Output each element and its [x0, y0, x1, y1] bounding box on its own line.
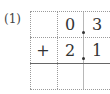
- grid-border-bottom: [30, 89, 110, 90]
- addition-grid: 0 3 + 2 1: [30, 11, 110, 89]
- digit-cell: 3: [84, 11, 110, 37]
- answer-digit-cell[interactable]: [84, 63, 110, 89]
- operator-cell: [30, 11, 56, 37]
- decimal-point: [82, 31, 85, 34]
- answer-operator-cell[interactable]: [30, 63, 56, 89]
- digit-cell: 2: [57, 37, 83, 63]
- problem-label: (1): [4, 12, 21, 26]
- digit-cell: 1: [84, 37, 110, 63]
- operator-cell: +: [30, 37, 56, 63]
- answer-digit-cell[interactable]: [57, 63, 83, 89]
- digit-cell: 0: [57, 11, 83, 37]
- decimal-point: [82, 57, 85, 60]
